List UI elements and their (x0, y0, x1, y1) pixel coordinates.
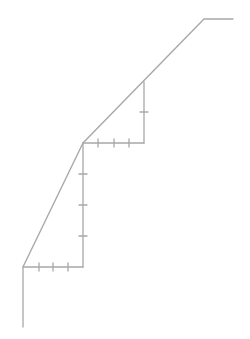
step-construction-lines (23, 82, 148, 271)
step-slope-diagram (0, 0, 250, 339)
diagram-canvas (0, 0, 250, 339)
slope-outline-path (23, 19, 233, 327)
